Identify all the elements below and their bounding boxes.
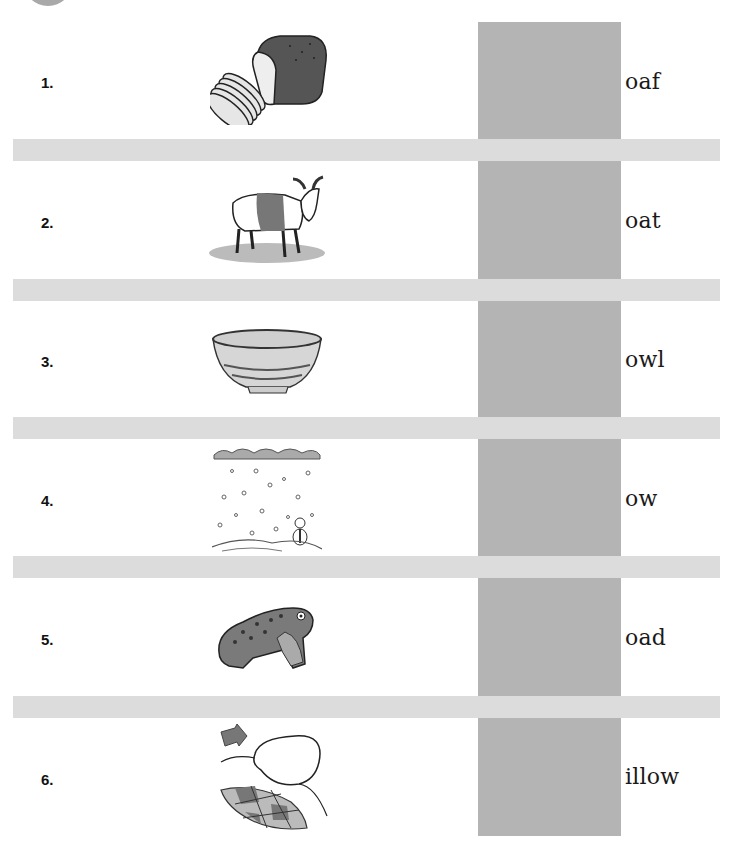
word-ending: oaf [625, 69, 660, 94]
pillow-icon [215, 724, 330, 834]
corner-circle-decoration [24, 0, 72, 6]
item-number: 6. [41, 771, 54, 788]
item-number: 3. [41, 353, 54, 370]
goat-icon [205, 173, 330, 268]
worksheet-row-4: 4. ow [0, 439, 732, 556]
item-number: 1. [41, 74, 54, 91]
worksheet-row-3: 3. owl [0, 301, 732, 417]
item-number: 4. [41, 492, 54, 509]
bread-loaf-icon [210, 30, 330, 125]
row-divider-band [13, 556, 720, 578]
worksheet-row-5: 5. oad [0, 578, 732, 696]
worksheet-row-6: 6. illow [0, 718, 732, 836]
row-divider-band [13, 696, 720, 718]
word-ending: ow [625, 486, 657, 511]
item-number: 5. [41, 631, 54, 648]
word-ending: oad [625, 625, 666, 650]
word-ending: oat [625, 208, 661, 233]
row-divider-band [13, 279, 720, 301]
word-ending: owl [625, 347, 665, 372]
bowl-icon [210, 329, 325, 394]
item-number: 2. [41, 214, 54, 231]
worksheet-row-2: 2. oat [0, 161, 732, 279]
snow-scene-icon [212, 445, 322, 553]
worksheet-row-1: 1. oaf [0, 22, 732, 139]
row-divider-band [13, 139, 720, 161]
row-divider-band [13, 417, 720, 439]
word-ending: illow [625, 764, 679, 789]
toad-icon [213, 602, 318, 674]
